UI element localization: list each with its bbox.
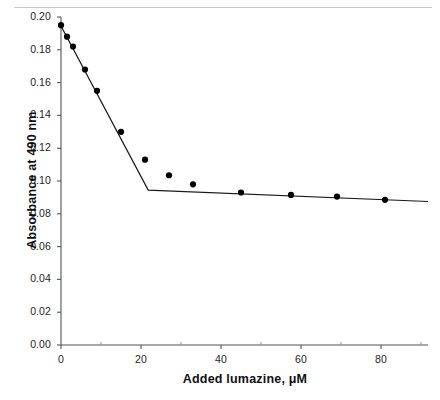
y-axis-ticks [57, 17, 61, 345]
data-point-marker [142, 157, 148, 163]
y-tick-label: 0.02 [17, 305, 51, 317]
data-point-marker [382, 197, 388, 203]
x-axis-title: Added lumazine, μM [61, 372, 429, 386]
x-tick-label: 40 [206, 353, 236, 365]
data-point-marker [82, 66, 88, 72]
axis-spines [61, 17, 428, 345]
data-point-marker [118, 129, 124, 135]
data-point-marker [58, 22, 64, 28]
data-point-marker [94, 88, 100, 94]
data-point-marker [238, 189, 244, 195]
x-tick-label: 20 [126, 353, 156, 365]
fit-line-series [61, 26, 428, 201]
x-tick-label: 60 [286, 353, 316, 365]
y-axis-title: Absorbance at 490 nm [25, 85, 39, 275]
x-tick-label: 0 [46, 353, 76, 365]
x-tick-label: 80 [366, 353, 396, 365]
y-tick-label: 0.18 [17, 43, 51, 55]
chart-figure: 0.000.020.040.060.080.100.120.140.160.18… [0, 0, 440, 400]
data-point-marker [64, 34, 70, 40]
data-point-marker [190, 181, 196, 187]
plot-canvas [0, 0, 440, 400]
y-tick-label: 0.00 [17, 338, 51, 350]
data-point-marker [70, 43, 76, 49]
data-point-marker [288, 192, 294, 198]
y-tick-label: 0.20 [17, 10, 51, 22]
data-point-marker [334, 193, 340, 199]
data-point-marker [166, 172, 172, 178]
